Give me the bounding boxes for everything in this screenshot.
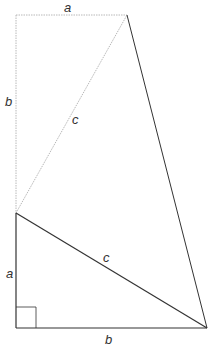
right-slant-edge	[127, 15, 207, 328]
label-upper-c: c	[72, 112, 79, 127]
label-lower-c: c	[103, 250, 110, 265]
lower-hypotenuse-c	[16, 213, 207, 328]
trapezoid-figure: a b c c a b	[0, 0, 212, 350]
label-left-a: a	[6, 266, 13, 281]
label-bottom-b: b	[105, 332, 112, 347]
diagram-canvas: a b c c a b	[0, 0, 212, 350]
label-left-b: b	[5, 94, 12, 109]
label-top-a: a	[64, 0, 71, 15]
right-angle-marker	[16, 307, 36, 328]
